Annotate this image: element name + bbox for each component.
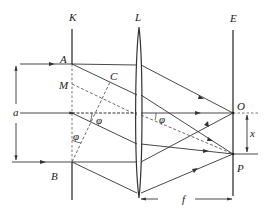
label-phi-2: φ bbox=[73, 130, 79, 142]
label-o: O bbox=[237, 100, 245, 112]
label-b: B bbox=[51, 170, 58, 182]
label-l: L bbox=[134, 11, 141, 23]
inclined-rays bbox=[72, 64, 137, 193]
label-k: K bbox=[68, 11, 77, 23]
label-e: E bbox=[229, 12, 237, 24]
label-m: M bbox=[58, 79, 69, 91]
label-phi-3: φ bbox=[159, 113, 165, 125]
label-c: C bbox=[110, 70, 118, 82]
optical-axis bbox=[20, 111, 258, 115]
label-f: f bbox=[182, 193, 187, 205]
label-a-point: A bbox=[59, 53, 67, 65]
point-o bbox=[232, 112, 235, 115]
optics-diagram: K L E A M C B a O P x f φ φ φ bbox=[0, 0, 271, 213]
point-p bbox=[232, 153, 235, 156]
label-a-width: a bbox=[13, 106, 19, 118]
converging-rays bbox=[141, 65, 233, 193]
label-x: x bbox=[249, 127, 255, 139]
label-p: P bbox=[236, 162, 244, 174]
label-phi-1: φ bbox=[96, 114, 102, 126]
